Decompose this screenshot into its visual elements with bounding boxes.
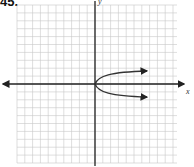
x-axis-label: x [185,87,190,96]
coordinate-graph: x y [0,0,194,167]
y-axis-label: y [97,0,102,6]
